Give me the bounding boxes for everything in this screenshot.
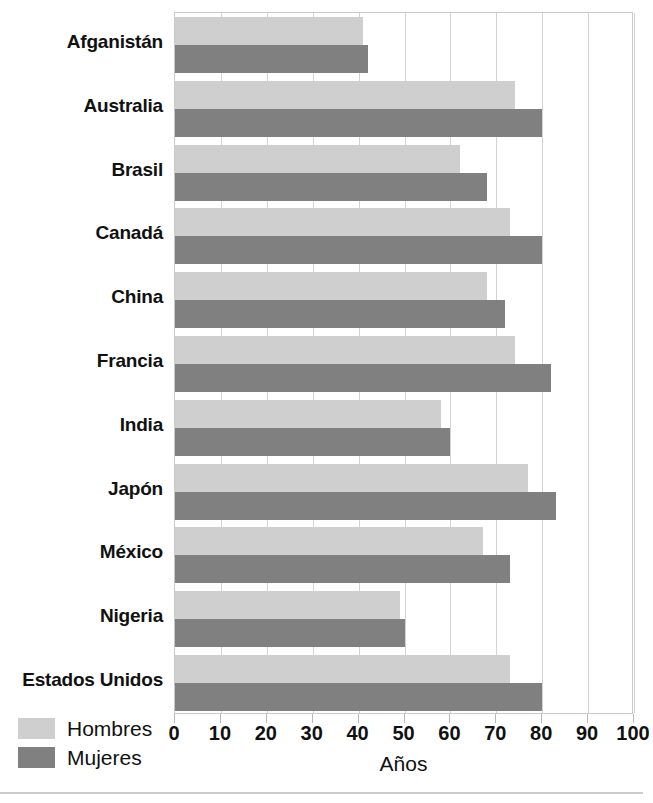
category-label: Japón [0,478,163,500]
bar-group [175,17,632,73]
bar-group [175,400,632,456]
x-tick-label: 80 [521,722,561,745]
bar-hombres [175,464,528,492]
category-label: México [0,541,163,563]
bar-group [175,336,632,392]
x-tick-label: 70 [475,722,515,745]
bar-hombres [175,81,515,109]
x-tick-label: 40 [338,722,378,745]
bar-group [175,591,632,647]
x-tick-label: 20 [246,722,286,745]
legend-item-hombres: Hombres [18,714,168,743]
x-tick-label: 60 [429,722,469,745]
category-label: Nigeria [0,605,163,627]
plot-area [174,12,633,714]
bar-hombres [175,527,483,555]
bar-mujeres [175,173,487,201]
category-label: Estados Unidos [0,669,163,691]
legend-label-hombres: Hombres [67,717,152,741]
bar-hombres [175,208,510,236]
bar-group [175,145,632,201]
category-label: Australia [0,95,163,117]
category-label: Francia [0,350,163,372]
legend-swatch-mujeres [18,747,55,768]
bar-group [175,464,632,520]
bar-group [175,655,632,711]
bar-hombres [175,272,487,300]
x-tick-label: 100 [613,722,653,745]
x-tick-label: 90 [567,722,607,745]
bar-mujeres [175,555,510,583]
x-tick-label: 50 [384,722,424,745]
bar-hombres [175,336,515,364]
legend-label-mujeres: Mujeres [67,746,142,770]
x-axis-title: Años [174,752,633,776]
bar-mujeres [175,45,368,73]
bar-mujeres [175,492,556,520]
bar-group [175,527,632,583]
bar-group [175,81,632,137]
bar-group [175,208,632,264]
bar-mujeres [175,300,505,328]
gridline-100 [634,13,635,713]
bar-hombres [175,145,460,173]
category-label: Canadá [0,222,163,244]
bar-mujeres [175,428,450,456]
bar-group [175,272,632,328]
bar-mujeres [175,683,542,711]
category-label: India [0,414,163,436]
legend-swatch-hombres [18,718,55,739]
category-label: Afganistán [0,31,163,53]
bar-hombres [175,17,363,45]
legend-item-mujeres: Mujeres [18,743,168,772]
bar-mujeres [175,619,405,647]
bar-hombres [175,400,441,428]
x-tick-label: 10 [200,722,240,745]
bar-mujeres [175,109,542,137]
bar-hombres [175,655,510,683]
bar-mujeres [175,364,551,392]
bottom-divider [0,792,643,794]
category-label: Brasil [0,159,163,181]
bar-mujeres [175,236,542,264]
chart-legend: Hombres Mujeres [18,714,168,772]
category-label: China [0,286,163,308]
bar-hombres [175,591,400,619]
x-tick-label: 30 [292,722,332,745]
